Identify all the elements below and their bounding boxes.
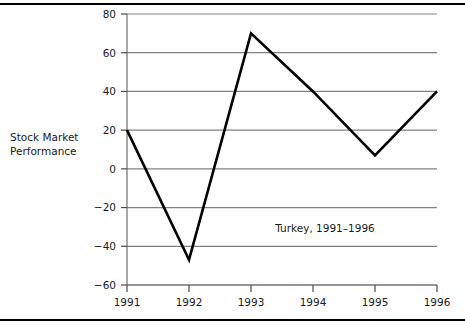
y-tick-label-60: 60 (103, 47, 116, 59)
y-tick-label-80: 80 (103, 8, 116, 20)
y-tick-label-−60: −60 (94, 279, 116, 291)
x-tick-labels: 199119921993199419951996 (114, 296, 451, 308)
y-axis (121, 14, 127, 285)
x-tick-label-1994: 1994 (300, 296, 327, 308)
y-tick-label-20: 20 (103, 124, 116, 136)
y-tick-label-40: 40 (103, 85, 116, 97)
y-tick-labels: 806040200−20−40−60 (94, 8, 116, 291)
x-tick-label-1996: 1996 (424, 296, 451, 308)
x-tick-label-1995: 1995 (362, 296, 389, 308)
y-tick-label-−40: −40 (94, 240, 116, 252)
x-tick-label-1991: 1991 (114, 296, 141, 308)
gridlines (127, 14, 437, 285)
y-tick-label-0: 0 (109, 163, 116, 175)
y-tick-label-−20: −20 (94, 201, 116, 213)
x-tick-label-1993: 1993 (238, 296, 265, 308)
x-axis (127, 285, 437, 292)
x-tick-label-1992: 1992 (176, 296, 203, 308)
series-annotation: Turkey, 1991–1996 (274, 222, 375, 234)
annotation-text: Turkey, 1991–1996 (274, 222, 375, 234)
line-chart-plot: 806040200−20−40−60 199119921993199419951… (0, 0, 465, 327)
chart-figure: Stock Market Performance 806040200−20−40… (0, 0, 465, 327)
